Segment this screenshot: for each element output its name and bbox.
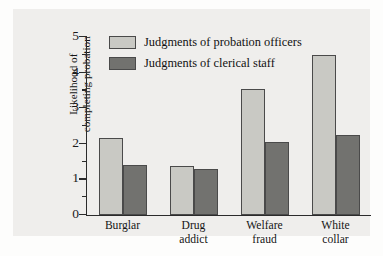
x-axis-category-label-line: fraud: [229, 233, 300, 247]
y-axis-tick-label: 4: [72, 65, 79, 79]
bar: [265, 142, 289, 215]
x-axis-category-label-line: Drug: [158, 219, 229, 233]
figure: Likelihood of completing probation 01234…: [0, 0, 383, 256]
legend-label: Judgments of clerical staff: [144, 56, 275, 71]
x-axis-category-label: Burglar: [87, 219, 158, 233]
y-axis-minor-tick: [82, 89, 87, 90]
y-axis-major-tick: [79, 72, 86, 73]
x-axis-category-label: Drugaddict: [158, 219, 229, 247]
x-axis-category-label-line: White: [300, 219, 371, 233]
y-axis-tick-label: 0: [72, 207, 79, 221]
bar: [170, 166, 194, 215]
bar: [123, 165, 147, 215]
x-axis-category-label-line: collar: [300, 233, 371, 247]
x-axis-category-label-line: Welfare: [229, 219, 300, 233]
y-axis-tick-label: 5: [72, 29, 79, 43]
x-axis-category-label: Welfarefraud: [229, 219, 300, 247]
bar: [336, 135, 360, 215]
x-axis-category-label: Whitecollar: [300, 219, 371, 247]
x-axis-category-label-line: Burglar: [87, 219, 158, 233]
bar: [312, 55, 336, 215]
legend-label: Judgments of probation officers: [144, 35, 302, 50]
legend-item: Judgments of probation officers: [109, 35, 302, 50]
y-axis-minor-tick: [82, 161, 87, 162]
y-axis-major-tick: [79, 178, 86, 179]
bar: [99, 138, 123, 215]
y-axis-tick-label: 3: [72, 100, 79, 114]
y-axis-major-tick: [79, 36, 86, 37]
x-axis-category-label-line: addict: [158, 233, 229, 247]
bar: [194, 169, 218, 215]
y-axis-major-tick: [79, 214, 86, 215]
legend-item: Judgments of clerical staff: [109, 56, 302, 71]
y-axis-tick-label: 2: [72, 136, 79, 150]
y-axis-minor-tick: [82, 125, 87, 126]
legend-swatch: [109, 36, 136, 49]
y-axis-major-tick: [79, 143, 86, 144]
y-axis-major-tick: [79, 107, 86, 108]
bar: [241, 89, 265, 215]
x-axis-line: [86, 215, 371, 216]
legend-swatch: [109, 57, 136, 70]
y-axis-minor-tick: [82, 196, 87, 197]
y-axis-tick-label: 1: [72, 172, 79, 186]
y-axis-minor-tick: [82, 54, 87, 55]
chart-panel: Likelihood of completing probation 01234…: [13, 9, 370, 236]
y-axis-tick-labels: 012345: [65, 36, 79, 216]
legend: Judgments of probation officersJudgments…: [109, 35, 302, 77]
